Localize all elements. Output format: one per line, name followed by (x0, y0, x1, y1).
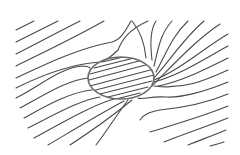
field-lines-diagram (0, 0, 240, 155)
diagram-svg (0, 0, 240, 155)
